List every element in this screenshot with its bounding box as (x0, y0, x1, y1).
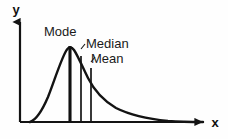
mode-label: Mode (44, 24, 77, 39)
distribution-figure: y x Mode Median Mean (0, 0, 228, 139)
x-axis-label: x (211, 115, 219, 130)
marker-lines-group (70, 46, 91, 122)
median-leader-line (81, 44, 85, 49)
axis-labels-group: y x (12, 2, 219, 130)
mean-label: Mean (91, 51, 124, 66)
stat-labels-group: Mode Median Mean (44, 24, 129, 66)
median-label: Median (86, 36, 129, 51)
y-axis-label: y (12, 2, 20, 17)
